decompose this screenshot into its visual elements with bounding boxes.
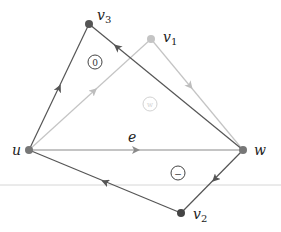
label-w: w (254, 142, 266, 158)
face-label-zero: 0 (88, 55, 102, 69)
vertex-v3 (85, 20, 93, 28)
svg-text:w: w (147, 101, 153, 109)
edge-v2-u (29, 150, 181, 213)
edge-v1-w (151, 39, 243, 150)
graph-diagram: 0 w − u w v3 v1 v2 e (0, 0, 281, 232)
label-v3: v3 (97, 7, 111, 25)
svg-text:0: 0 (92, 58, 98, 68)
vertex-v2 (177, 209, 185, 217)
diagram-canvas: 0 w − u w v3 v1 v2 e (0, 0, 281, 232)
edge-w-v2 (181, 150, 243, 213)
face-label-faint: w (143, 97, 157, 111)
vertex-u (25, 146, 33, 154)
vertex-w (239, 146, 247, 154)
label-u: u (12, 142, 21, 158)
label-edge-e: e (128, 129, 136, 145)
edge-u-v3 (29, 24, 89, 150)
label-v1: v1 (163, 29, 177, 47)
svg-text:−: − (174, 169, 182, 179)
face-label-minus: − (171, 166, 185, 180)
vertex-v1 (147, 35, 155, 43)
label-v2: v2 (193, 206, 207, 224)
